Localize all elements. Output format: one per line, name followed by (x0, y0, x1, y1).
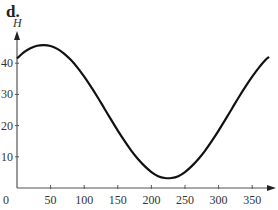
x-axis-arrow-icon (267, 185, 276, 191)
x-tick-label: 100 (75, 193, 93, 207)
y-tick-label: 20 (1, 119, 13, 133)
y-tick-label: 10 (1, 150, 13, 164)
y-axis-arrow-icon (14, 31, 20, 40)
x-tick-label: 300 (210, 193, 228, 207)
data-curve (17, 45, 269, 178)
x-tick-label: 50 (45, 193, 57, 207)
y-axis-label: H (12, 16, 23, 30)
y-tick-label: 30 (1, 87, 13, 101)
x-tick-label: 150 (109, 193, 127, 207)
line-chart: Ht05010015020025030035010203040 (0, 0, 278, 210)
x-tick-label: 200 (142, 193, 160, 207)
x-tick-label: 0 (3, 193, 9, 207)
y-tick-label: 40 (1, 56, 13, 70)
x-tick-label: 250 (176, 193, 194, 207)
x-tick-label: 350 (243, 193, 261, 207)
